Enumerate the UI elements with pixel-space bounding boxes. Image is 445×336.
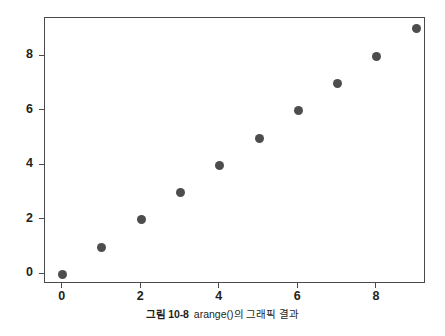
x-axis-tick-label: 0 [42,289,82,303]
plot-area [45,18,424,282]
y-axis-tick-label: 0 [0,265,33,279]
x-axis-tick-label: 4 [199,289,239,303]
data-point [255,134,264,143]
x-axis-tick [297,283,298,288]
figure-container: 0246802468 그림 10-8arange()의 그래픽 결과 [0,0,445,336]
y-axis-tick-label: 4 [0,156,33,170]
x-axis-tick-label: 2 [120,289,160,303]
figure-caption: 그림 10-8arange()의 그래픽 결과 [0,306,445,321]
data-point [215,161,224,170]
data-point [412,24,421,33]
y-axis-tick [39,164,44,165]
y-axis-tick-label: 2 [0,211,33,225]
data-point [58,270,67,279]
caption-text: arange()의 그래픽 결과 [194,308,300,320]
x-axis-tick-label: 8 [356,289,396,303]
data-point [333,79,342,88]
x-axis-tick [218,283,219,288]
data-point [97,243,106,252]
data-point [176,188,185,197]
y-axis-tick-label: 8 [0,47,33,61]
x-axis-tick [61,283,62,288]
data-point [137,215,146,224]
x-axis-tick [375,283,376,288]
data-point [294,106,303,115]
plot-frame [44,17,425,283]
caption-label: 그림 10-8 [146,308,189,320]
y-axis-tick [39,109,44,110]
y-axis-tick-label: 6 [0,102,33,116]
y-axis-tick [39,55,44,56]
y-axis-tick [39,273,44,274]
x-axis-tick-label: 6 [277,289,317,303]
y-axis-tick [39,218,44,219]
data-point [372,52,381,61]
x-axis-tick [140,283,141,288]
